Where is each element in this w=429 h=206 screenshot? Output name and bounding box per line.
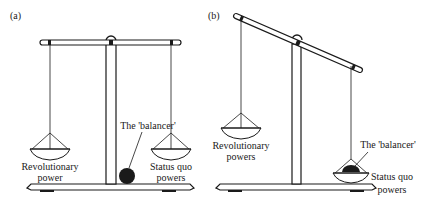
left-pan-a [30, 45, 70, 160]
scale-post-b [292, 44, 301, 184]
right-pan-label-line1-a: Status quo [150, 161, 192, 172]
panel-b-label: (b) [208, 10, 220, 22]
right-pan-label-line2-b: powers [378, 184, 407, 195]
left-pan-label-line2-a: power [38, 172, 64, 183]
right-pan-label-line1-b: Status quo [371, 171, 413, 182]
balancer-pointer-a [129, 132, 142, 168]
scale-base-a [27, 184, 194, 192]
panel-a: (a) Revolutionary power [10, 10, 194, 192]
left-pan-label-line1-b: Revolutionary [212, 140, 269, 151]
panel-b: (b) Revolutionary [208, 10, 416, 195]
scale-beam-a [40, 36, 181, 45]
left-pan-b [221, 20, 261, 139]
panel-a-label: (a) [10, 10, 21, 22]
right-pan-label-line2-a: powers [157, 172, 186, 183]
right-pan-a [151, 45, 191, 160]
right-pan-b [333, 66, 369, 183]
left-pan-label-line1-a: Revolutionary [21, 161, 78, 172]
balancer-label-a: The 'balancer' [120, 120, 176, 131]
balancer-pointer-b [355, 152, 368, 166]
left-pan-label-line2-b: powers [227, 151, 256, 162]
balancer-label-b: The 'balancer' [360, 139, 416, 150]
balancer-weight-a [119, 168, 135, 184]
balancer-weight-b [342, 165, 360, 172]
scale-base-b [216, 184, 376, 192]
scale-post-a [106, 44, 116, 184]
